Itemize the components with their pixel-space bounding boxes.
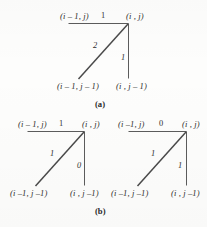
- edge-weight-b1-horizontal: 1: [59, 120, 63, 128]
- node-label-b2-top-right: (i , j): [182, 120, 200, 129]
- node-label-a1-bottom-left: (i – 1, j – 1): [57, 82, 99, 91]
- edge-weight-a1-diagonal: 2: [93, 42, 97, 50]
- node-label-b2-bottom-left: (i –1, j –1): [111, 189, 148, 198]
- node-label-a1-top-right: (i , j): [126, 12, 144, 21]
- figure-root: (i – 1, j) 1 (i , j) 2 1 (i – 1, j – 1) …: [0, 0, 207, 227]
- panel-caption-a: (a): [95, 100, 105, 109]
- node-label-b2-bottom-right: (i , j –1): [171, 189, 200, 198]
- edge-weight-a1-horizontal: 1: [101, 12, 105, 20]
- node-label-b1-bottom-right: (i , j –1): [70, 189, 99, 198]
- edge-weight-b2-horizontal: 0: [159, 120, 163, 128]
- edge-weight-b1-vertical: 0: [77, 162, 81, 170]
- node-label-b1-bottom-left: (i –1, j –1): [10, 189, 47, 198]
- edge-weight-b1-diagonal: 1: [50, 150, 54, 158]
- node-label-a1-top-left: (i – 1, j): [60, 12, 89, 21]
- node-label-b1-top-left: (i – 1, j): [18, 120, 47, 129]
- edge-weight-a1-vertical: 1: [121, 54, 125, 62]
- node-label-b1-top-right: (i , j): [82, 120, 100, 129]
- edge-diagonal-a1: [79, 24, 129, 79]
- edge-weight-b2-vertical: 1: [178, 162, 182, 170]
- edge-diagonal-b2: [138, 132, 187, 186]
- edge-weight-b2-diagonal: 1: [151, 150, 155, 158]
- edge-diagonal-b1: [36, 132, 85, 186]
- panel-caption-b: (b): [95, 207, 106, 216]
- node-label-b2-top-left: (i –1, j): [118, 120, 144, 129]
- node-label-a1-bottom-right: (i , j – 1): [116, 82, 147, 91]
